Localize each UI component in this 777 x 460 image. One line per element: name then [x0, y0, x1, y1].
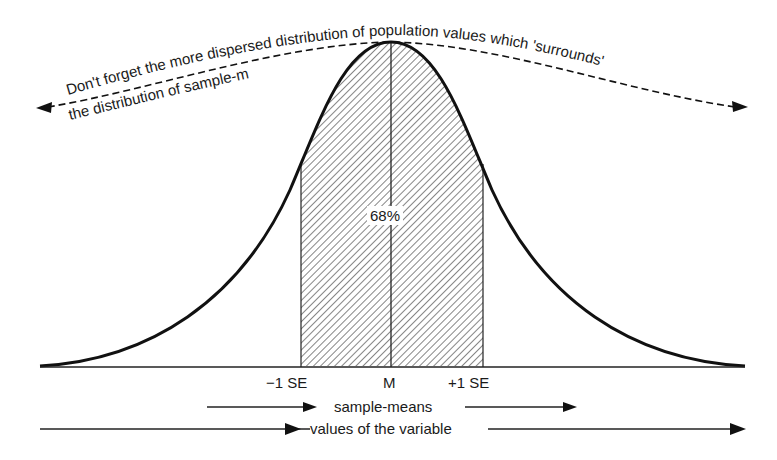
sample-means-label: sample-means [334, 398, 432, 415]
arrowhead-right-icon [563, 402, 577, 412]
arrowhead-right-icon [303, 402, 317, 412]
minus-se-label: −1 SE [266, 374, 307, 391]
distribution-diagram: Don't forget the more dispersed distribu… [0, 0, 777, 460]
plus-se-label: +1 SE [448, 374, 489, 391]
percentage-label: 68% [367, 206, 403, 225]
values-label: values of the variable [310, 420, 452, 437]
arrowhead-left-icon [36, 102, 52, 113]
arrowhead-right-icon [730, 423, 746, 435]
arrowhead-right-icon [732, 101, 748, 112]
mean-label: M [383, 374, 396, 391]
arrowhead-right-icon [285, 423, 301, 435]
